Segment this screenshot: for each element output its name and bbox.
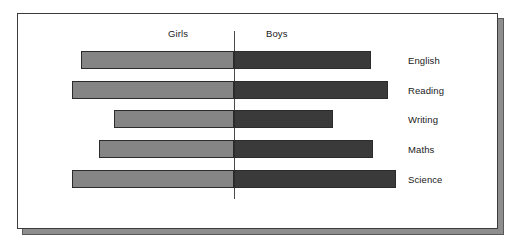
bar-girls-science xyxy=(72,170,234,188)
chart-screenshot: Girls Boys EnglishReadingWritingMathsSci… xyxy=(0,0,528,245)
category-label-english: English xyxy=(408,55,440,66)
bar-boys-english xyxy=(234,51,371,69)
bar-girls-maths xyxy=(99,140,234,158)
bar-boys-reading xyxy=(234,81,388,99)
category-label-maths: Maths xyxy=(408,144,434,155)
chart-panel: Girls Boys EnglishReadingWritingMathsSci… xyxy=(17,13,498,229)
bar-girls-reading xyxy=(72,81,234,99)
bar-girls-english xyxy=(81,51,234,69)
category-label-science: Science xyxy=(408,174,443,185)
group-header-girls: Girls xyxy=(168,28,188,39)
bar-boys-maths xyxy=(234,140,373,158)
bar-girls-writing xyxy=(114,110,234,128)
bar-boys-science xyxy=(234,170,396,188)
plot-area: Girls Boys EnglishReadingWritingMathsSci… xyxy=(18,14,497,228)
category-label-reading: Reading xyxy=(408,85,444,96)
group-header-boys: Boys xyxy=(266,28,288,39)
category-label-writing: Writing xyxy=(408,114,438,125)
bar-boys-writing xyxy=(234,110,333,128)
